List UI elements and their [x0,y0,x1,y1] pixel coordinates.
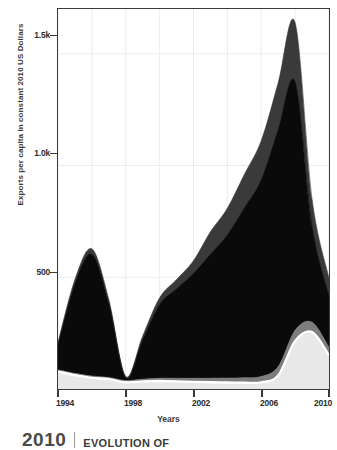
footer-title: EVOLUTION OF [83,437,169,449]
x-axis-ticks: 1994 1998 2002 2006 2010 [57,390,330,398]
y-tick-label-500: 500 [20,268,50,277]
y-axis-ticks: 1.5k 1.0k 500 [20,0,50,390]
y-tick-mark-1500 [50,35,57,36]
y-tick-label-1000: 1.0k [20,149,50,158]
x-tick-label-1994: 1994 [56,398,74,408]
plot-area [57,8,330,390]
footer-caption: 2010 EVOLUTION OF [22,431,169,449]
x-axis-title: Years [0,414,337,424]
y-tick-mark-500 [50,272,57,273]
y-tick-label-1500: 1.5k [20,31,50,40]
x-tick-mark-2002 [328,390,330,397]
x-tick-label-2006: 2006 [260,398,278,408]
x-tick-mark-2000 [261,390,263,397]
footer-year: 2010 [22,431,66,449]
area-chart-svg [58,9,329,389]
x-tick-mark-1998 [193,390,195,397]
x-tick-mark-1996 [125,390,127,397]
x-tick-label-2010: 2010 [314,398,332,408]
x-tick-label-1998: 1998 [124,398,142,408]
chart-page: Exports per capita in constant 2010 US D… [0,0,337,450]
footer-divider [74,432,75,448]
x-tick-mark-1994 [57,390,59,397]
y-tick-mark-1000 [50,153,57,154]
x-tick-label-2002: 2002 [192,398,210,408]
